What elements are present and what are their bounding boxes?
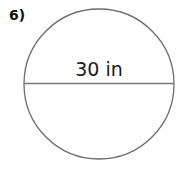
diameter-label: 30 in — [75, 58, 123, 80]
circle-diagram: 30 in — [0, 0, 179, 185]
